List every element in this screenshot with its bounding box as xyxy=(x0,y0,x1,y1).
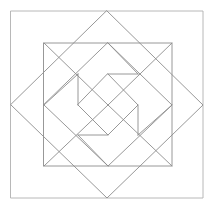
figure-root xyxy=(0,0,215,209)
geometric-pinwheel-figure xyxy=(0,0,215,209)
